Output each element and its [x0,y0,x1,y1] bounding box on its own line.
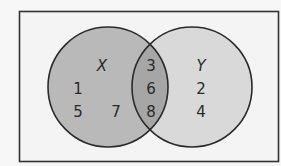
y-only-element: 4 [196,103,206,121]
x-only-element: 1 [73,80,83,98]
intersection-element: 3 [146,57,156,75]
venn-diagram: X Y 1 5 7 3 6 8 2 4 [0,0,281,166]
y-only-element: 2 [196,80,206,98]
x-only-element: 5 [73,103,83,121]
set-x-label: X [96,57,108,75]
intersection-element: 8 [146,103,156,121]
x-only-element: 7 [111,103,121,121]
intersection-element: 6 [146,80,156,98]
